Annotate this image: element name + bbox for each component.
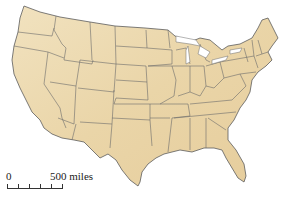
scale-distance-label: 500 miles — [50, 170, 93, 182]
scale-ruler — [7, 184, 63, 189]
scale-bar: 0 500 miles — [4, 170, 64, 192]
scale-zero-label: 0 — [6, 170, 12, 182]
